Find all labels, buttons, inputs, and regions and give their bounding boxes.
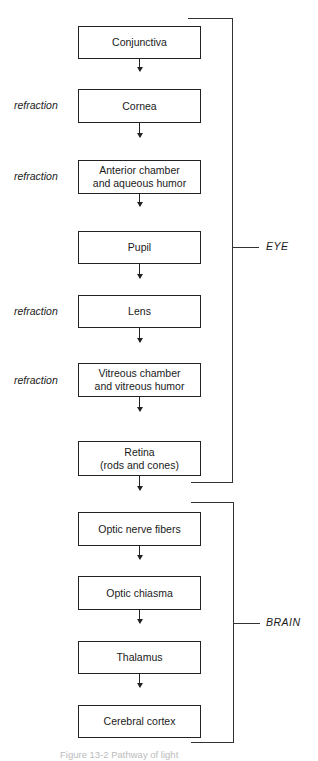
arrow-down-icon [139, 546, 140, 559]
refraction-label: refraction [14, 170, 58, 182]
box-retina: Retina (rods and cones) [78, 441, 201, 476]
arrow-down-icon [139, 328, 140, 342]
box-label: Anterior chamber and aqueous humor [93, 164, 186, 190]
box-pupil: Pupil [78, 231, 201, 264]
arrow-down-icon [139, 476, 140, 490]
box-label: Retina (rods and cones) [100, 446, 179, 472]
box-anterior-chamber: Anterior chamber and aqueous humor [78, 160, 201, 194]
arrow-down-icon [139, 397, 140, 411]
box-optic-chiasma: Optic chiasma [78, 576, 201, 610]
eye-group-label: EYE [266, 240, 289, 252]
box-lens: Lens [78, 295, 201, 328]
arrow-down-icon [139, 264, 140, 278]
box-label: Conjunctiva [112, 36, 167, 49]
arrow-down-icon [139, 194, 140, 206]
box-label: Vitreous chamber and vitreous humor [95, 367, 185, 393]
refraction-label: refraction [14, 374, 58, 386]
arrow-down-icon [139, 610, 140, 623]
refraction-label: refraction [14, 305, 58, 317]
box-vitreous-chamber: Vitreous chamber and vitreous humor [78, 363, 201, 397]
arrow-down-icon [139, 674, 140, 687]
box-cerebral-cortex: Cerebral cortex [78, 705, 201, 738]
box-cornea: Cornea [78, 89, 201, 123]
box-label: Lens [128, 305, 151, 318]
box-label: Cornea [122, 100, 156, 113]
brain-group-label: BRAIN [266, 616, 301, 628]
box-label: Thalamus [116, 651, 162, 664]
box-label: Pupil [128, 241, 151, 254]
box-label: Optic nerve fibers [98, 523, 180, 536]
box-conjunctiva: Conjunctiva [78, 26, 201, 59]
arrow-down-icon [139, 123, 140, 137]
box-label: Cerebral cortex [104, 715, 176, 728]
box-thalamus: Thalamus [78, 641, 201, 674]
box-label: Optic chiasma [106, 587, 173, 600]
box-optic-nerve-fibers: Optic nerve fibers [78, 512, 201, 546]
figure-caption: Figure 13-2 Pathway of light [60, 749, 178, 760]
arrow-down-icon [139, 59, 140, 71]
refraction-label: refraction [14, 99, 58, 111]
